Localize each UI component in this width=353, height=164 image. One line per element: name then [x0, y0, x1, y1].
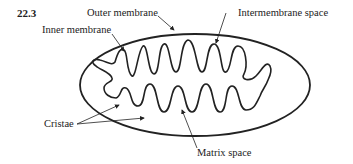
label-intermembrane-space: Intermembrane space [238, 7, 328, 18]
label-matrix-space: Matrix space [197, 147, 252, 158]
inner-membrane-shape [93, 40, 271, 112]
outer-membrane-pointer [158, 16, 174, 30]
label-outer-membrane: Outer membrane [87, 7, 158, 18]
label-inner-membrane: Inner membrane [42, 24, 111, 35]
label-cristae: Cristae [44, 118, 74, 129]
matrix-space-pointer [182, 110, 197, 148]
intermembrane-space-pointer [216, 13, 226, 43]
